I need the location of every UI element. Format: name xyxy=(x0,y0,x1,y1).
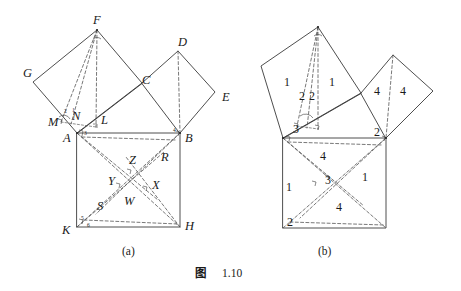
vertex-dot-f xyxy=(96,29,98,31)
angle-label-1: 1 xyxy=(72,107,75,113)
label-M: M xyxy=(47,115,59,129)
cevian-d-b xyxy=(178,51,180,133)
panel-b: 1 1 2 2 4 4 3 2 4 1 3 1 4 2 (b) xyxy=(261,26,433,258)
b-region-right-4b: 4 xyxy=(400,84,406,98)
subcaption-b: (b) xyxy=(318,245,332,258)
b-vertex-dot-apex xyxy=(317,26,319,28)
b-region-left-1a: 1 xyxy=(284,75,290,89)
b-square-right xyxy=(361,55,433,138)
label-Z: Z xyxy=(129,153,137,167)
b-cevian-apex-mid xyxy=(307,27,318,128)
b-region-left-1b: 1 xyxy=(329,75,335,89)
right-angle-mark-m xyxy=(58,119,62,124)
b-cevian-tr-down xyxy=(300,138,386,218)
b-inner-top xyxy=(288,142,382,145)
b-vertex-3-top: 3 xyxy=(293,122,299,136)
label-D: D xyxy=(177,35,187,49)
b-region-left-2a: 2 xyxy=(299,89,305,103)
b-vertex-2-top-right: 2 xyxy=(374,125,380,139)
angle-label-4: 4 xyxy=(173,127,176,133)
b-region-left-2b: 2 xyxy=(309,89,315,103)
b-region-bottom-3-center: 3 xyxy=(325,173,331,187)
figure-caption: 图 1.10 xyxy=(195,266,242,280)
angle-label-2: 2 xyxy=(64,108,67,114)
label-K: K xyxy=(61,223,71,237)
b-right-angle-mark-2 xyxy=(315,125,319,130)
label-S: S xyxy=(97,199,104,213)
b-angle-arc-base xyxy=(300,114,313,118)
geometry-diagram: F D G C E M N L A B R Z Y X W S K H 2 1 … xyxy=(0,0,461,291)
label-F: F xyxy=(92,13,101,27)
label-L: L xyxy=(100,113,108,127)
label-C: C xyxy=(142,73,151,87)
b-vertex-dot-right xyxy=(385,137,387,139)
b-region-right-4a: 4 xyxy=(374,84,380,98)
b-vertex-dot-left xyxy=(282,137,284,139)
label-X: X xyxy=(151,178,161,192)
segment-k-h-inner xyxy=(84,220,178,224)
label-B: B xyxy=(185,131,193,145)
caption-number: 1.10 xyxy=(222,267,242,279)
label-W: W xyxy=(124,194,136,208)
caption-label: 图 xyxy=(195,266,206,280)
label-H: H xyxy=(184,219,195,233)
segment-a-b-inner xyxy=(82,137,176,140)
vertex-dot-b xyxy=(179,132,181,134)
panel-a: F D G C E M N L A B R Z Y X W S K H 2 1 … xyxy=(23,13,230,258)
subcaption-a: (a) xyxy=(122,245,135,258)
angle-label-5: 5 xyxy=(81,215,84,221)
cevian-h-z xyxy=(126,157,180,227)
label-E: E xyxy=(221,90,230,104)
label-Y: Y xyxy=(108,174,117,188)
b-right-angle-mark-6 xyxy=(312,181,316,186)
b-vertex-2-bottom-left: 2 xyxy=(287,215,293,229)
b-cevian-apex-left xyxy=(297,27,318,126)
right-angle-mark-y xyxy=(116,183,120,188)
label-G: G xyxy=(23,66,32,80)
b-region-bottom-1-right: 1 xyxy=(362,170,368,184)
cevian-f-l xyxy=(96,30,97,127)
b-cevian-right-square xyxy=(386,55,393,138)
angle-label-3: 3 xyxy=(84,130,87,136)
label-A: A xyxy=(62,131,71,145)
figure-container: F D G C E M N L A B R Z Y X W S K H 2 1 … xyxy=(0,0,461,291)
b-region-bottom-4-bottom: 4 xyxy=(336,200,342,214)
vertex-dot-a xyxy=(76,132,78,134)
b-region-bottom-1-left: 1 xyxy=(286,180,292,194)
b-region-bottom-4-top: 4 xyxy=(320,149,326,163)
b-right-angle-mark-3 xyxy=(286,136,290,141)
angle-label-6: 6 xyxy=(87,222,90,228)
label-R: R xyxy=(160,150,169,164)
right-angle-mark-z xyxy=(127,169,131,174)
b-inner-bottom xyxy=(290,222,384,225)
